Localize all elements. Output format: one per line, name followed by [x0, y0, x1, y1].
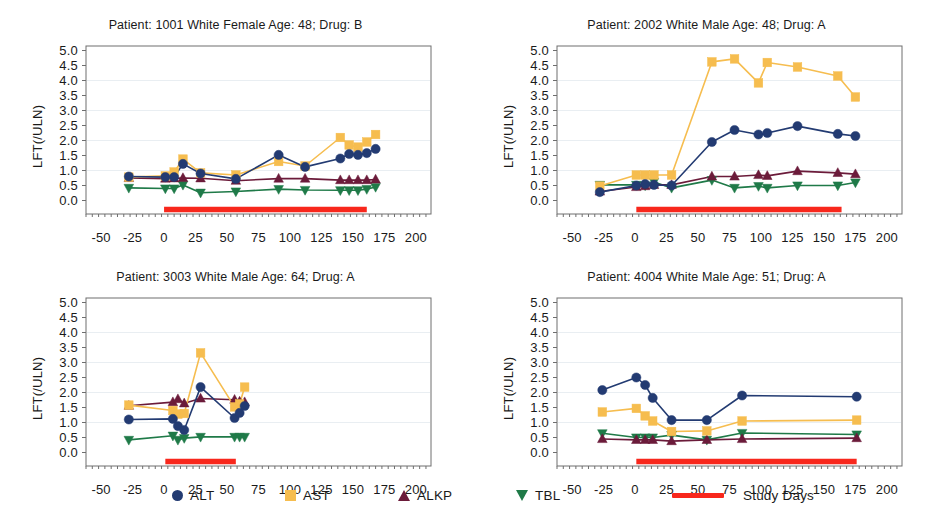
data-point [178, 159, 187, 168]
data-point [196, 383, 205, 392]
data-point [300, 173, 310, 182]
data-point [703, 427, 712, 436]
series-line-ast [600, 59, 856, 186]
data-point [180, 425, 189, 434]
legend-item-tbl[interactable]: TBL [516, 488, 560, 503]
data-point [667, 171, 676, 180]
legend-label: Study Days [743, 488, 814, 503]
data-point [180, 409, 189, 418]
data-point [240, 401, 249, 410]
legend-item-alkp[interactable]: ALKP [398, 488, 452, 503]
data-point [170, 173, 179, 182]
data-point [667, 416, 676, 425]
data-point [851, 131, 860, 140]
data-point [362, 149, 371, 158]
data-point [274, 150, 283, 159]
plot-area [471, 0, 942, 252]
data-point [851, 93, 860, 102]
data-point [649, 180, 658, 189]
series-markers-alt [598, 373, 862, 425]
legend-item-alt[interactable]: ALT [172, 488, 214, 503]
data-point [371, 174, 381, 183]
circle-marker [172, 490, 183, 501]
line-marker [672, 493, 724, 498]
data-point [595, 188, 604, 197]
data-point [737, 391, 746, 400]
legend-item-study-days[interactable]: Study Days [672, 488, 814, 503]
data-point [648, 393, 657, 402]
data-point [196, 349, 205, 358]
lft-spaghetti-figure: Patient: 1001 White Female Age: 48; Drug… [0, 0, 942, 525]
data-point [763, 128, 772, 137]
data-point [754, 130, 763, 139]
data-point [231, 174, 240, 183]
plot-area [0, 252, 471, 504]
data-point [353, 150, 362, 159]
chart-panel-2: Patient: 2002 White Male Age: 48; Drug: … [471, 0, 942, 252]
data-point [196, 169, 205, 178]
plot-area [471, 252, 942, 504]
axes-frame [557, 46, 902, 214]
data-point [345, 141, 354, 150]
series-markers-ast [125, 349, 249, 419]
data-point [763, 58, 772, 67]
data-point [738, 417, 747, 426]
plot-area [0, 0, 471, 252]
data-point [793, 122, 802, 131]
data-point [161, 173, 170, 182]
legend-label: AST [303, 488, 330, 503]
data-point [754, 170, 764, 179]
axes-frame [86, 298, 431, 466]
data-point [702, 416, 711, 425]
legend-label: TBL [535, 488, 560, 503]
chart-panel-3: Patient: 3003 White Male Age: 64; Drug: … [0, 252, 471, 504]
data-point [632, 404, 641, 413]
data-point [641, 171, 650, 180]
data-point [833, 129, 842, 138]
legend-label: ALT [190, 488, 214, 503]
data-point [852, 392, 861, 401]
data-point [173, 394, 183, 403]
data-point [730, 184, 740, 193]
data-point [641, 179, 650, 188]
chart-panel-4: Patient: 4004 White Male Age: 51; Drug: … [471, 252, 942, 504]
data-point [632, 373, 641, 382]
data-point [667, 427, 676, 436]
data-point [598, 434, 608, 443]
data-point [648, 417, 657, 426]
series-line-alkp [602, 438, 856, 441]
series-line-alt [129, 387, 245, 430]
data-point [650, 171, 659, 180]
data-point [124, 172, 133, 181]
data-point [754, 79, 763, 88]
data-point [300, 162, 309, 171]
data-point [336, 154, 345, 163]
figure-legend: ALTASTALKPTBLStudy Days [0, 486, 942, 518]
data-point [833, 72, 842, 81]
data-point [730, 125, 739, 134]
data-point [178, 173, 188, 182]
data-point [707, 137, 716, 146]
triangle-down-marker [516, 490, 528, 501]
data-point [598, 408, 607, 417]
data-point [124, 415, 133, 424]
data-point [124, 436, 134, 445]
data-point [641, 380, 650, 389]
data-point [632, 171, 641, 180]
data-point [344, 175, 354, 184]
data-point [362, 138, 371, 147]
axes-frame [557, 298, 902, 466]
data-point [169, 185, 179, 194]
data-point [240, 383, 249, 392]
data-point [336, 187, 346, 196]
data-point [730, 55, 739, 64]
legend-item-ast[interactable]: AST [285, 488, 330, 503]
data-point [336, 133, 345, 142]
data-point [793, 63, 802, 72]
chart-panel-1: Patient: 1001 White Female Age: 48; Drug… [0, 0, 471, 252]
data-point [371, 144, 380, 153]
data-point [125, 401, 134, 410]
data-point [667, 181, 676, 190]
data-point [762, 184, 772, 193]
data-point [345, 149, 354, 158]
